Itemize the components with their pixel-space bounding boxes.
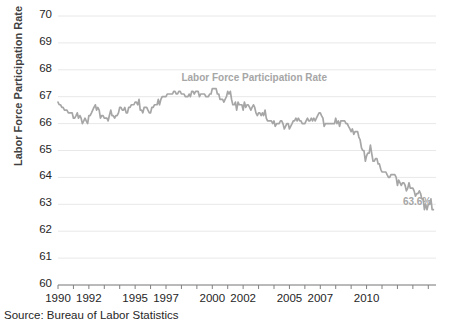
gridlines: [58, 16, 436, 285]
y-axis-tick-label: 69: [26, 35, 52, 47]
x-axis-ticks: [58, 285, 428, 289]
y-axis-tick-label: 62: [26, 223, 52, 235]
y-axis-tick-label: 70: [26, 8, 52, 20]
x-axis-tick-label: 2002: [223, 292, 263, 304]
y-axis-tick-label: 67: [26, 89, 52, 101]
y-axis-tick-label: 64: [26, 169, 52, 181]
end-value-annotation: 63.6%: [403, 196, 431, 207]
y-axis-tick-label: 65: [26, 143, 52, 155]
x-axis-tick-label: 1992: [69, 292, 109, 304]
y-axis-tick-label: 66: [26, 116, 52, 128]
data-series-line: [58, 89, 433, 210]
y-axis-tick-label: 61: [26, 250, 52, 262]
y-axis-tick-label: 63: [26, 196, 52, 208]
x-axis-tick-label: 2007: [300, 292, 340, 304]
line-chart-svg: [0, 0, 459, 331]
x-axis-tick-label: 1997: [146, 292, 186, 304]
y-axis-tick-label: 60: [26, 277, 52, 289]
chart-container: Labor Force Participation Rate 706968676…: [0, 0, 459, 331]
x-axis-tick-label: 2010: [347, 292, 387, 304]
y-axis-tick-label: 68: [26, 62, 52, 74]
series-label: Labor Force Participation Rate: [181, 72, 327, 83]
source-note: Source: Bureau of Labor Statistics: [4, 309, 179, 321]
y-axis-title: Labor Force Participation Rate: [12, 0, 24, 186]
